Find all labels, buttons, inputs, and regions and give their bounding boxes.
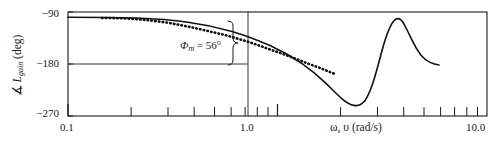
x-tick-label-1-0: 1.0 — [240, 122, 254, 133]
y-axis-variable: L — [11, 76, 23, 82]
y-tick-label-minus90: −90 — [19, 8, 59, 19]
phase-margin-annotation: Φm = 56° — [180, 40, 221, 53]
phase-margin-subscript: m — [188, 44, 194, 53]
angle-symbol-icon: ∡ — [9, 82, 24, 96]
x-tick-label-0-1: 0.1 — [60, 122, 74, 133]
x-tick-label-10-0: 10.0 — [466, 122, 485, 133]
y-tick-label-minus270: −270 — [19, 108, 59, 119]
y-tick-label-minus180: −180 — [19, 58, 59, 69]
phase-margin-value: = 56° — [197, 39, 221, 51]
phase-bode-plot-figure: ∡Lgain (deg) −90 −180 −270 0.1 1.0 10.0 … — [0, 0, 502, 148]
x-axis-label: ω, υ (rad/s) — [330, 122, 382, 134]
y-axis-units: (deg) — [11, 35, 23, 59]
